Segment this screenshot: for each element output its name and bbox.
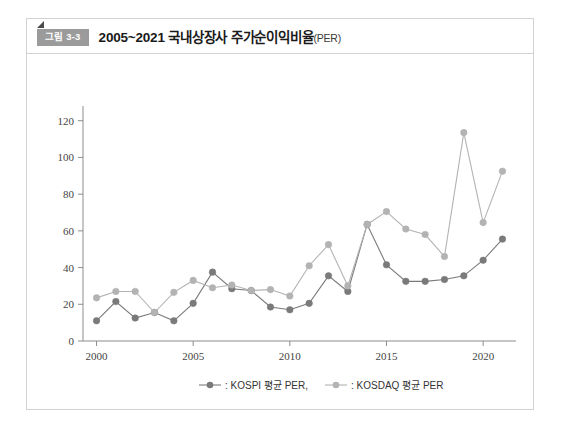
data-point — [171, 289, 178, 296]
figure-header: 그림 3-3 2005~2021 국내상장사 주가순이익비율(PER) — [27, 19, 533, 53]
data-point — [209, 269, 216, 276]
data-point — [267, 286, 274, 293]
y-tick-label: 80 — [63, 188, 75, 200]
data-point — [306, 300, 313, 307]
data-point — [461, 273, 468, 280]
figure-card: 그림 3-3 2005~2021 국내상장사 주가순이익비율(PER) 0204… — [26, 18, 534, 410]
figure-title-suffix: (PER) — [313, 32, 341, 44]
data-point — [422, 278, 429, 285]
y-tick-label: 60 — [63, 225, 75, 237]
series-line-1 — [97, 133, 503, 313]
legend-marker-dot-0 — [207, 382, 214, 389]
legend-label-1: : KOSDAQ 평균 PER — [351, 380, 443, 391]
data-point — [190, 300, 197, 307]
data-point — [209, 284, 216, 291]
figure-badge: 그림 3-3 — [37, 29, 89, 46]
data-point — [403, 226, 410, 233]
x-tick-label: 2015 — [375, 350, 398, 362]
data-point — [403, 278, 410, 285]
legend-marker-dot-1 — [333, 382, 340, 389]
y-tick-label: 120 — [58, 115, 75, 127]
page-title: 2005~2021 국내상장사 주가순이익비율(PER) — [99, 26, 341, 46]
data-point — [499, 236, 506, 243]
data-point — [113, 298, 120, 305]
y-tick-label: 20 — [63, 298, 75, 310]
data-point — [287, 306, 294, 313]
x-tick-label: 2005 — [182, 350, 205, 362]
data-point — [364, 221, 371, 228]
y-tick-label: 40 — [63, 262, 75, 274]
y-axis-ticks: 020406080100120 — [58, 115, 84, 347]
x-tick-label: 2020 — [472, 350, 495, 362]
data-point — [113, 288, 120, 295]
y-tick-label: 100 — [58, 151, 75, 163]
data-point — [287, 293, 294, 300]
data-point — [480, 219, 487, 226]
chart-legend: : KOSPI 평균 PER,: KOSDAQ 평균 PER — [199, 380, 443, 391]
figure-title-main: 2005~2021 국내상장사 주가순이익비율 — [99, 30, 314, 45]
data-point — [132, 315, 139, 322]
data-point — [171, 318, 178, 325]
data-point — [461, 129, 468, 136]
data-point — [267, 304, 274, 311]
data-point — [151, 309, 158, 316]
data-point — [441, 253, 448, 260]
x-tick-label: 2000 — [86, 350, 109, 362]
data-point — [248, 287, 255, 294]
data-point — [325, 273, 332, 280]
data-point — [383, 262, 390, 269]
data-point — [190, 277, 197, 284]
series-line-0 — [97, 224, 503, 320]
x-tick-label: 2010 — [279, 350, 302, 362]
series-points — [93, 129, 506, 324]
data-point — [499, 168, 506, 175]
data-point — [422, 231, 429, 238]
per-line-chart: 020406080100120 20002005201020152020 : K… — [27, 54, 533, 410]
chart-area: 020406080100120 20002005201020152020 : K… — [27, 54, 533, 410]
data-point — [229, 282, 236, 289]
data-point — [132, 288, 139, 295]
x-axis-ticks: 20002005201020152020 — [86, 341, 495, 362]
data-point — [383, 208, 390, 215]
badge-fold-icon — [37, 21, 44, 28]
data-point — [480, 257, 487, 264]
data-point — [93, 318, 100, 325]
figure-badge-wrap: 그림 3-3 — [37, 26, 89, 46]
data-point — [306, 262, 313, 269]
data-point — [441, 276, 448, 283]
series-lines — [97, 133, 503, 321]
data-point — [93, 295, 100, 302]
data-point — [345, 283, 352, 290]
data-point — [325, 241, 332, 248]
legend-label-0: : KOSPI 평균 PER, — [225, 380, 308, 391]
y-tick-label: 0 — [69, 335, 75, 347]
